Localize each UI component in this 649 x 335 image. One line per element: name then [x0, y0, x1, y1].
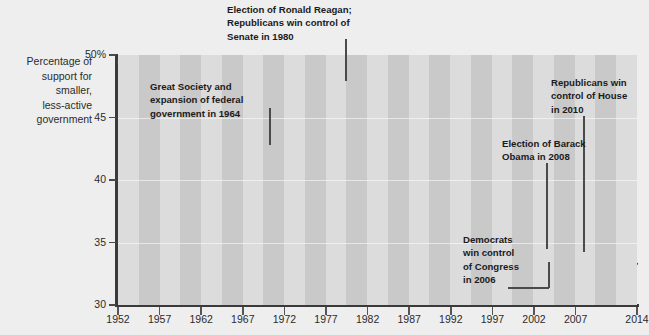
x-axis-tick-mark	[492, 307, 494, 315]
y-axis-tick-label: 30	[72, 298, 106, 310]
gridline	[118, 180, 637, 181]
x-axis-tick-mark	[408, 307, 410, 315]
y-axis-tick-label: 50%	[72, 48, 106, 60]
y-axis-tick-mark	[109, 242, 116, 244]
annotation-democrats-congress-2006-leader-line	[508, 287, 549, 289]
y-axis-tick-mark	[109, 179, 116, 181]
annotation-reagan: Election of Ronald Reagan; Republicans w…	[227, 3, 352, 43]
annotation-democrats-congress-2006-leader-line	[548, 262, 550, 288]
annotation-obama-2008-leader-line	[546, 163, 548, 249]
x-axis-tick-mark	[242, 307, 244, 315]
y-axis-tick-label: 45	[72, 111, 106, 123]
y-axis-tick-mark	[109, 117, 116, 119]
x-axis-tick-mark	[284, 307, 286, 315]
annotation-great-society-leader-line	[269, 108, 271, 145]
annotation-republicans-house-2010: Republicans win control of House in 2010	[551, 76, 627, 116]
y-axis-tick-label: 40	[72, 173, 106, 185]
x-axis-tick-mark	[200, 307, 202, 315]
y-axis-tick-label: 35	[72, 236, 106, 248]
x-axis-tick-mark	[117, 307, 119, 315]
x-axis-tick-mark	[367, 307, 369, 315]
x-axis-tick-mark	[575, 307, 577, 315]
y-axis-tick-mark	[109, 54, 116, 56]
annotation-obama-2008: Election of Barack Obama in 2008	[502, 137, 586, 164]
x-axis-tick-mark	[450, 307, 452, 315]
x-axis-tick-mark	[325, 307, 327, 315]
annotation-democrats-congress-2006: Democrats win control of Congress in 200…	[463, 233, 519, 287]
annotation-great-society: Great Society and expansion of federal g…	[150, 80, 243, 120]
y-axis-title-line-2: support for	[0, 69, 92, 84]
gridline	[118, 243, 637, 244]
x-axis-tick-mark	[159, 307, 161, 315]
x-axis-tick-mark	[636, 307, 638, 315]
y-axis-title-line-3: smaller,	[0, 83, 92, 98]
x-axis-tick-mark	[533, 307, 535, 315]
annotation-reagan-leader-line	[345, 39, 347, 81]
y-axis-tick-mark	[109, 304, 116, 306]
